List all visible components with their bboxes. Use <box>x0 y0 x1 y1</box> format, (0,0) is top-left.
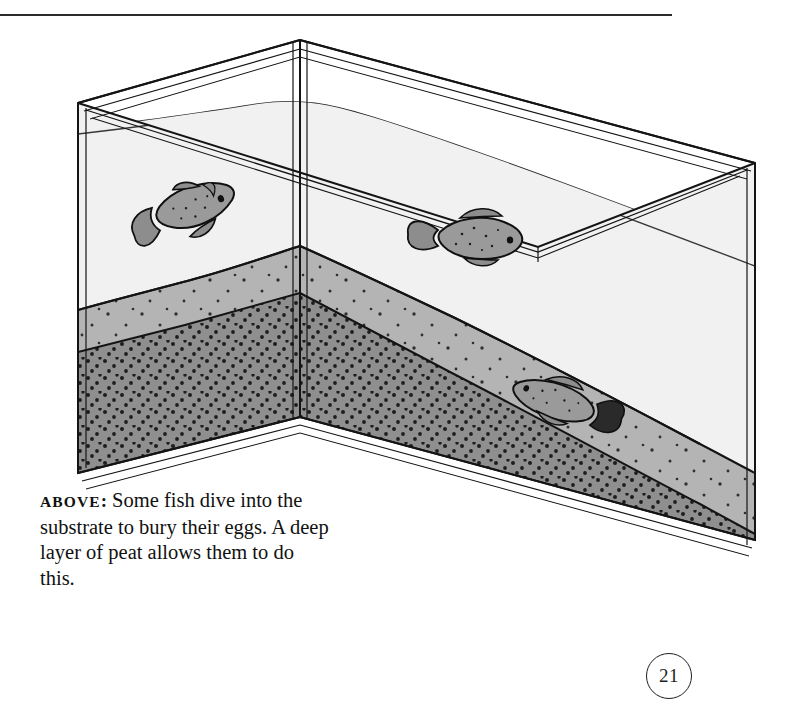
book-page: ABOVE: Some fish dive into the substrate… <box>0 0 802 721</box>
page-number: 21 <box>659 665 679 687</box>
page-number-badge: 21 <box>646 653 692 699</box>
aquarium-illustration <box>0 0 802 721</box>
caption-lead: ABOVE <box>40 493 101 510</box>
figure-caption: ABOVE: Some fish dive into the substrate… <box>40 488 330 591</box>
tank-interior <box>60 30 770 560</box>
